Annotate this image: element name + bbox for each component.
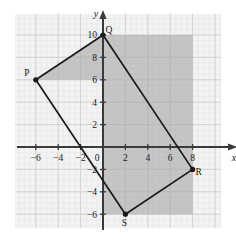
y-tick-label: −2 <box>87 165 97 175</box>
point-label-p: P <box>24 68 29 78</box>
y-tick-label: 6 <box>92 75 97 85</box>
x-tick-label: 8 <box>190 153 195 163</box>
x-axis-arrow <box>228 143 236 150</box>
plot-svg: PQRS−6−4−22468108642−2−4−60xy <box>0 0 236 244</box>
figure-canvas: PQRS−6−4−22468108642−2−4−60xy <box>0 0 236 244</box>
y-tick-label: −4 <box>87 187 97 197</box>
y-tick-label: 8 <box>92 53 97 63</box>
point-label-r: R <box>195 167 202 177</box>
rectangle-shade <box>103 35 193 214</box>
x-tick-label: 4 <box>145 153 150 163</box>
coordinate-plane: PQRS−6−4−22468108642−2−4−60xy <box>0 0 236 244</box>
vertex-p <box>33 77 38 82</box>
x-tick-label: −2 <box>76 153 86 163</box>
y-tick-label: 2 <box>92 120 97 130</box>
y-tick-label: 10 <box>88 30 98 40</box>
x-tick-label: −6 <box>31 153 41 163</box>
x-axis-label: x <box>231 152 236 163</box>
y-tick-label: 4 <box>92 98 97 108</box>
x-tick-label: −4 <box>53 153 63 163</box>
y-axis-label: y <box>93 8 99 19</box>
origin-label: 0 <box>95 153 100 163</box>
vertex-s <box>123 212 128 217</box>
x-tick-label: 2 <box>123 153 128 163</box>
x-tick-label: 6 <box>168 153 173 163</box>
point-label-q: Q <box>106 25 113 35</box>
point-label-s: S <box>122 218 127 228</box>
vertex-r <box>190 167 195 172</box>
y-tick-label: −6 <box>87 210 97 220</box>
